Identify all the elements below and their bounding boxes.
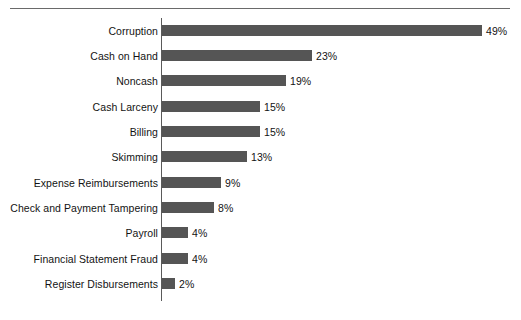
bar-row: Noncash 19% <box>0 75 521 86</box>
bar-skimming <box>162 151 247 162</box>
bar-row: Expense Reimbursements 9% <box>0 177 521 188</box>
bar-row: Register Disbursements 2% <box>0 278 521 289</box>
category-label: Corruption <box>108 25 158 36</box>
bar-cash-larceny <box>162 101 260 112</box>
bar-row: Cash on Hand 23% <box>0 50 521 61</box>
value-label: 4% <box>192 253 207 264</box>
value-label: 2% <box>179 278 194 289</box>
category-label: Noncash <box>116 75 158 86</box>
bar-row: Corruption 49% <box>0 25 521 36</box>
bar-cash-on-hand <box>162 50 312 61</box>
value-label: 49% <box>486 25 507 36</box>
bar-row: Payroll 4% <box>0 227 521 238</box>
horizontal-bar-chart: Corruption 49% Cash on Hand 23% Noncash … <box>0 0 521 320</box>
value-label: 9% <box>225 177 240 188</box>
category-label: Expense Reimbursements <box>34 177 158 188</box>
bar-noncash <box>162 75 286 86</box>
bar-expense-reimbursements <box>162 177 221 188</box>
value-label: 13% <box>251 151 272 162</box>
bar-row: Check and Payment Tampering 8% <box>0 202 521 213</box>
category-label: Payroll <box>126 227 158 238</box>
category-label: Cash on Hand <box>90 50 158 61</box>
value-label: 4% <box>192 227 207 238</box>
category-label: Skimming <box>112 151 159 162</box>
bar-corruption <box>162 25 482 36</box>
value-label: 15% <box>264 101 285 112</box>
bar-row: Skimming 13% <box>0 151 521 162</box>
bar-check-and-payment-tampering <box>162 202 214 213</box>
category-label: Billing <box>130 126 158 137</box>
bar-register-disbursements <box>162 278 175 289</box>
value-label: 23% <box>316 50 337 61</box>
value-label: 19% <box>290 75 311 86</box>
bar-row: Cash Larceny 15% <box>0 101 521 112</box>
bar-row: Billing 15% <box>0 126 521 137</box>
bar-financial-statement-fraud <box>162 253 188 264</box>
category-label: Check and Payment Tampering <box>10 202 158 213</box>
category-label: Register Disbursements <box>45 278 158 289</box>
category-label: Cash Larceny <box>93 101 158 112</box>
category-label: Financial Statement Fraud <box>34 253 158 264</box>
bar-row: Financial Statement Fraud 4% <box>0 253 521 264</box>
value-label: 8% <box>218 202 233 213</box>
bar-payroll <box>162 227 188 238</box>
bar-billing <box>162 126 260 137</box>
value-label: 15% <box>264 126 285 137</box>
